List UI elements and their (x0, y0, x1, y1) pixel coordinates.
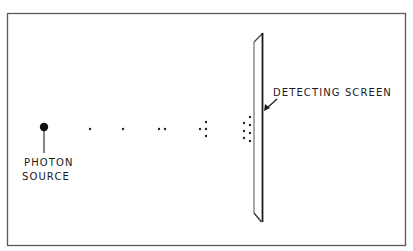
photon-dot (89, 128, 91, 130)
photon-group-3 (158, 128, 166, 130)
photon-group-5 (243, 116, 251, 142)
photon-group-2 (122, 128, 124, 130)
photon-group-4 (199, 121, 207, 137)
photon-dot (249, 124, 251, 126)
photon-experiment-diagram: PHOTON SOURCE (0, 0, 413, 251)
photon-dot (205, 135, 207, 137)
photon-dot (205, 121, 207, 123)
photon-dot (243, 122, 245, 124)
photon-dot (199, 128, 201, 130)
photon-dot (249, 132, 251, 134)
photon-source-dot-icon (40, 123, 48, 131)
photon-source-label-line1: PHOTON (24, 157, 73, 168)
photon-source: PHOTON SOURCE (22, 123, 73, 182)
photon-group-1 (89, 128, 91, 130)
photon-dot (249, 140, 251, 142)
photon-dot (205, 128, 207, 130)
pointer-arrow-icon (264, 99, 277, 111)
photon-dot (158, 128, 160, 130)
photon-dot (164, 128, 166, 130)
photon-dot (243, 137, 245, 139)
detecting-screen-label: DETECTING SCREEN (273, 87, 392, 98)
photon-source-label-line2: SOURCE (22, 171, 70, 182)
photon-dot (122, 128, 124, 130)
photon-dot (249, 116, 251, 118)
detecting-screen (254, 33, 263, 222)
photon-dots (89, 116, 251, 142)
photon-dot (243, 130, 245, 132)
